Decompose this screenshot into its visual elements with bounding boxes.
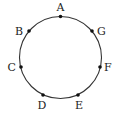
point-c: [19, 65, 23, 69]
point-d: [41, 93, 45, 97]
point-b: [27, 29, 31, 33]
label-d: D: [38, 99, 47, 112]
label-a: A: [56, 1, 66, 14]
circle: [20, 17, 102, 99]
point-a: [59, 15, 63, 19]
circle-diagram: ABGCFDE: [0, 0, 118, 119]
label-b: B: [15, 25, 23, 38]
point-g: [90, 29, 94, 33]
point-e: [76, 93, 80, 97]
label-c: C: [8, 61, 16, 74]
label-g: G: [97, 25, 106, 38]
label-f: F: [104, 61, 112, 74]
label-e: E: [75, 99, 83, 112]
point-f: [98, 65, 102, 69]
